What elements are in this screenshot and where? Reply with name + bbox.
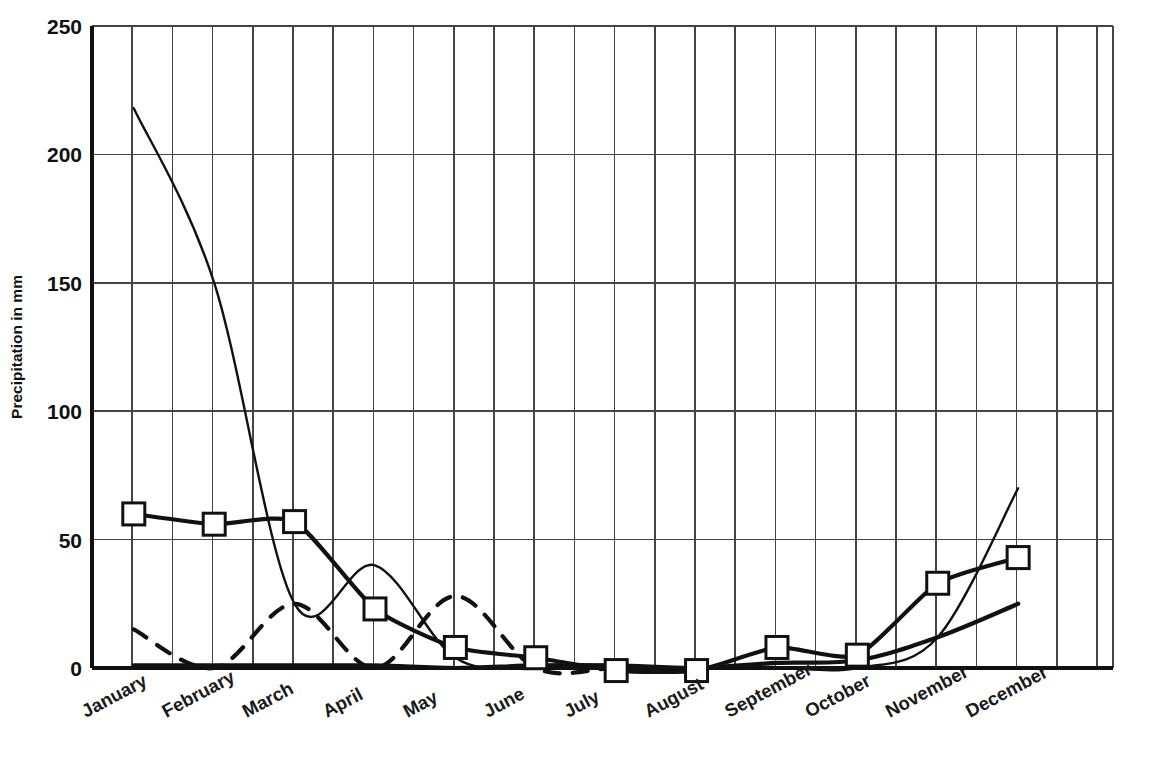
y-tick-label-50: 50 (59, 529, 82, 552)
data-point-marker[interactable] (846, 644, 868, 666)
data-point-marker[interactable] (364, 598, 386, 620)
y-tick-label-150: 150 (47, 272, 82, 295)
data-point-marker[interactable] (525, 647, 547, 669)
y-axis-title: Precipitation in mm (8, 275, 25, 419)
y-tick-label-200: 200 (47, 143, 82, 166)
y-tick-label-100: 100 (47, 400, 82, 423)
chart-canvas: 250 200 150 100 50 0 Precipitation in mm… (0, 0, 1163, 773)
data-point-marker[interactable] (1007, 547, 1029, 569)
data-point-marker[interactable] (927, 572, 949, 594)
data-point-marker[interactable] (766, 636, 788, 658)
data-point-marker[interactable] (605, 660, 627, 682)
chart-background (0, 0, 1163, 773)
data-point-marker[interactable] (203, 513, 225, 535)
data-point-marker[interactable] (444, 636, 466, 658)
y-tick-label-0: 0 (70, 657, 82, 680)
data-point-marker[interactable] (284, 511, 306, 533)
y-tick-label-250: 250 (47, 15, 82, 38)
precipitation-chart: 250 200 150 100 50 0 Precipitation in mm… (0, 0, 1163, 773)
data-point-marker[interactable] (123, 503, 145, 525)
